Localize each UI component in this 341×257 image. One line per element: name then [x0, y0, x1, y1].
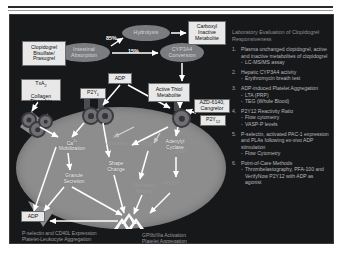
- panel-item-text: Point-of-Care Methods: [241, 160, 292, 166]
- p2y12-label-box: P2Y12: [200, 115, 226, 126]
- clopidogrel-label: Clopidogrel Bisulfate/ Prasugrel: [31, 45, 57, 62]
- percent-hydrolysis-label: 85%: [106, 35, 117, 41]
- cyp3a4-label: CYP3A4 Conversion: [168, 47, 195, 58]
- panel-title: Laboratory Evaluation of Clopidogrel Res…: [232, 29, 330, 42]
- panel-sub-item: Thrombelastography, PFA-100 and VerifyNo…: [241, 166, 330, 186]
- panel-sub-item: Erythromycin breath test: [241, 75, 330, 82]
- intestinal-absorption-label: Intestinal Absorption: [71, 47, 97, 58]
- adp-top-label: ADP: [115, 76, 126, 82]
- header-rule-thick: [8, 6, 333, 8]
- azd-cangrelor-box: AZD-6140, Cangrelor: [194, 99, 230, 113]
- txa2-collagen-thrombin-box: TxA2 Collagen Thrombin: [21, 79, 61, 101]
- txa2-text: TxA: [35, 80, 44, 86]
- panel-sub-list: LC-MS/MS assay: [241, 59, 330, 66]
- panel-list-item: P2Y12 Reactivity RatioFlow cytometryVASP…: [232, 108, 330, 128]
- header-rule-thin: [8, 10, 333, 11]
- hydrolysis-label: Hydrolysis: [134, 30, 159, 35]
- adp-box-top: ADP: [108, 73, 132, 84]
- txa2-agonists-label: TxA2 Collagen Thrombin: [30, 75, 52, 106]
- panel-sub-item: Flow Cytometry: [241, 150, 330, 157]
- panel-sub-item: VASP-P levels: [241, 121, 330, 128]
- panel-item-text: P-selectin, activated PAC-1 expression a…: [241, 131, 329, 150]
- clopidogrel-drug-box: Clopidogrel Bisulfate/ Prasugrel: [22, 41, 66, 66]
- percent-cyp-label: 15%: [128, 48, 139, 54]
- panel-item-list: Plasma unchanged clopidogrel, active and…: [232, 46, 330, 186]
- panel-list-item: P-selectin, activated PAC-1 expression a…: [232, 131, 330, 157]
- azd-cangrelor-label: AZD-6140, Cangrelor: [199, 100, 224, 112]
- p2y1-label: P2Y1: [87, 90, 99, 97]
- pi3k-label: PI3K: [136, 142, 160, 148]
- p2y12-label: P2Y12: [206, 117, 220, 124]
- p2y12-subscript: 12: [216, 120, 220, 124]
- panel-item-text: P2Y12 Reactivity Ratio: [241, 108, 293, 114]
- shape-change-label: Shape Change: [99, 161, 133, 172]
- pkc-activation-label: PKC Activation: [102, 135, 132, 146]
- plus-sign-label: +: [76, 181, 84, 187]
- panel-item-text: Hepatic CYP3A4 activity: [241, 69, 296, 75]
- fibrinogen-binding-label: Fibrinogen Binding: [130, 183, 158, 194]
- camp-label: cAMP: [170, 149, 192, 155]
- gpiibiiia-activation-caption: GPIIb/IIIa Activation Platelet Aggregati…: [142, 233, 228, 244]
- panel-list-item: ADP-induced Platelet AggregationLTA (PRP…: [232, 85, 330, 105]
- txa2-subscript: 2: [45, 84, 47, 88]
- panel-item-text: ADP-induced Platelet Aggregation: [241, 85, 318, 91]
- p2y1-text: P2Y: [87, 89, 97, 95]
- panel-list-item: Plasma unchanged clopidogrel, active and…: [232, 46, 330, 66]
- p2y1-subscript: 1: [97, 93, 99, 97]
- p2y1-label-box: P2Y1: [80, 88, 106, 99]
- panel-item-text: Plasma unchanged clopidogrel, active and…: [241, 46, 327, 59]
- panel-sub-list: Erythromycin breath test: [241, 75, 330, 82]
- cyp3a4-conversion-node: CYP3A4 Conversion: [160, 43, 204, 62]
- panel-list-item: Hepatic CYP3A4 activityErythromycin brea…: [232, 69, 330, 82]
- slide-canvas: Intestinal Absorption Hydrolysis CYP3A4 …: [0, 0, 341, 257]
- diagram-board: Intestinal Absorption Hydrolysis CYP3A4 …: [9, 14, 334, 244]
- pselectin-cd40l-caption: P-selectin and CD40L Expression Platelet…: [22, 231, 122, 243]
- calcium-mobilization-label: Ca2+ Mobilization: [52, 140, 92, 152]
- active-thiol-metabolite-box: Active Thiol Metabolite: [148, 83, 190, 102]
- vasp-p-label: VASP-P: [158, 181, 184, 187]
- panel-sub-list: Thrombelastography, PFA-100 and VerifyNo…: [241, 166, 330, 186]
- p2y12-text: P2Y: [206, 116, 216, 122]
- panel-sub-item: TEG (Whole Blood): [241, 98, 330, 105]
- lab-evaluation-panel: Laboratory Evaluation of Clopidogrel Res…: [232, 29, 330, 235]
- gpiibiiia-chevron-group: [114, 218, 154, 230]
- mobilization-text: Mobilization: [59, 145, 85, 151]
- panel-sub-list: LTA (PRP)TEG (Whole Blood): [241, 92, 330, 105]
- panel-list-item: Point-of-Care MethodsThrombelastography,…: [232, 160, 330, 186]
- granule-secretion-label: Granule Secretion: [54, 173, 94, 184]
- panel-sub-item: LC-MS/MS assay: [241, 59, 330, 66]
- carboxyl-metabolite-box: Carboxyl Inactive Metabolite: [188, 21, 226, 45]
- active-thiol-label: Active Thiol Metabolite: [156, 87, 183, 99]
- calcium-superscript: 2+: [73, 139, 77, 143]
- carboxyl-label: Carboxyl Inactive Metabolite: [195, 24, 219, 41]
- panel-sub-list: Flow cytometryVASP-P levels: [241, 114, 330, 127]
- adp-bottom-label: ADP: [28, 214, 39, 220]
- hydrolysis-node: Hydrolysis: [122, 25, 170, 41]
- adp-box-bottom: ADP: [21, 211, 45, 222]
- txa2-rest-text: Collagen Thrombin: [30, 93, 52, 105]
- panel-sub-list: Flow Cytometry: [241, 150, 330, 157]
